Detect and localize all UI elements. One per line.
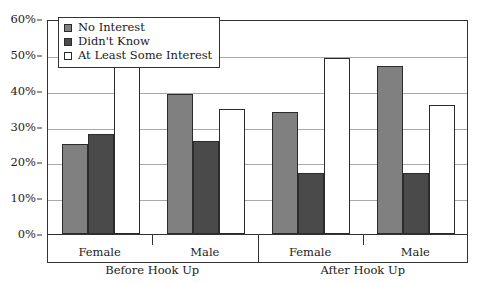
- y-tick-mark: [37, 199, 42, 200]
- x-tick-label: Male: [190, 247, 219, 259]
- x-group-tick-mark: [258, 235, 259, 262]
- x-axis: FemaleMaleFemaleMaleBefore Hook UpAfter …: [47, 235, 468, 283]
- y-tick-label: 60%: [10, 14, 36, 26]
- legend-item-didnt-know: Didn't Know: [64, 35, 212, 49]
- y-tick-label: 30%: [10, 122, 36, 134]
- legend-label-some-interest: At Least Some Interest: [78, 50, 212, 62]
- bar: [298, 173, 324, 234]
- y-tick-mark: [37, 55, 42, 56]
- y-tick-mark: [37, 235, 42, 236]
- x-tick-label: Female: [289, 247, 331, 259]
- x-tick-label: Male: [401, 247, 430, 259]
- y-tick-mark: [37, 91, 42, 92]
- bar: [62, 144, 88, 234]
- chart-legend: No Interest Didn't Know At Least Some In…: [58, 17, 220, 68]
- legend-swatch-some-interest: [64, 52, 72, 60]
- gridline: [48, 129, 467, 130]
- y-tick-label: 10%: [10, 193, 36, 205]
- gridline: [48, 93, 467, 94]
- bar: [167, 94, 193, 234]
- y-tick-mark: [37, 163, 42, 164]
- y-tick-label: 20%: [10, 158, 36, 170]
- bar: [272, 112, 298, 234]
- y-tick-mark: [37, 127, 42, 128]
- legend-item-no-interest: No Interest: [64, 21, 212, 35]
- y-tick-mark: [37, 20, 42, 21]
- y-tick-label: 50%: [10, 50, 36, 62]
- bar: [219, 109, 245, 234]
- bar-chart: 0%10%20%30%40%50%60% FemaleMaleFemaleMal…: [0, 0, 483, 283]
- bar: [114, 66, 140, 234]
- legend-label-no-interest: No Interest: [78, 22, 145, 34]
- legend-item-some-interest: At Least Some Interest: [64, 49, 212, 63]
- legend-swatch-didnt-know: [64, 38, 72, 46]
- x-tick-mark: [363, 235, 364, 245]
- x-tick-mark: [152, 235, 153, 245]
- y-tick-label: 40%: [10, 86, 36, 98]
- y-axis: 0%10%20%30%40%50%60%: [0, 20, 42, 235]
- x-group-tick-mark: [467, 235, 468, 262]
- bar: [324, 58, 350, 234]
- bar: [429, 105, 455, 234]
- bar: [403, 173, 429, 234]
- bar: [88, 134, 114, 234]
- x-group-tick-mark: [47, 235, 48, 262]
- x-group-label: Before Hook Up: [105, 265, 199, 277]
- bar: [377, 66, 403, 234]
- x-tick-label: Female: [78, 247, 120, 259]
- y-tick-label: 0%: [18, 229, 36, 241]
- bar: [193, 141, 219, 234]
- legend-label-didnt-know: Didn't Know: [78, 36, 150, 48]
- legend-swatch-no-interest: [64, 24, 72, 32]
- x-group-label: After Hook Up: [321, 265, 406, 277]
